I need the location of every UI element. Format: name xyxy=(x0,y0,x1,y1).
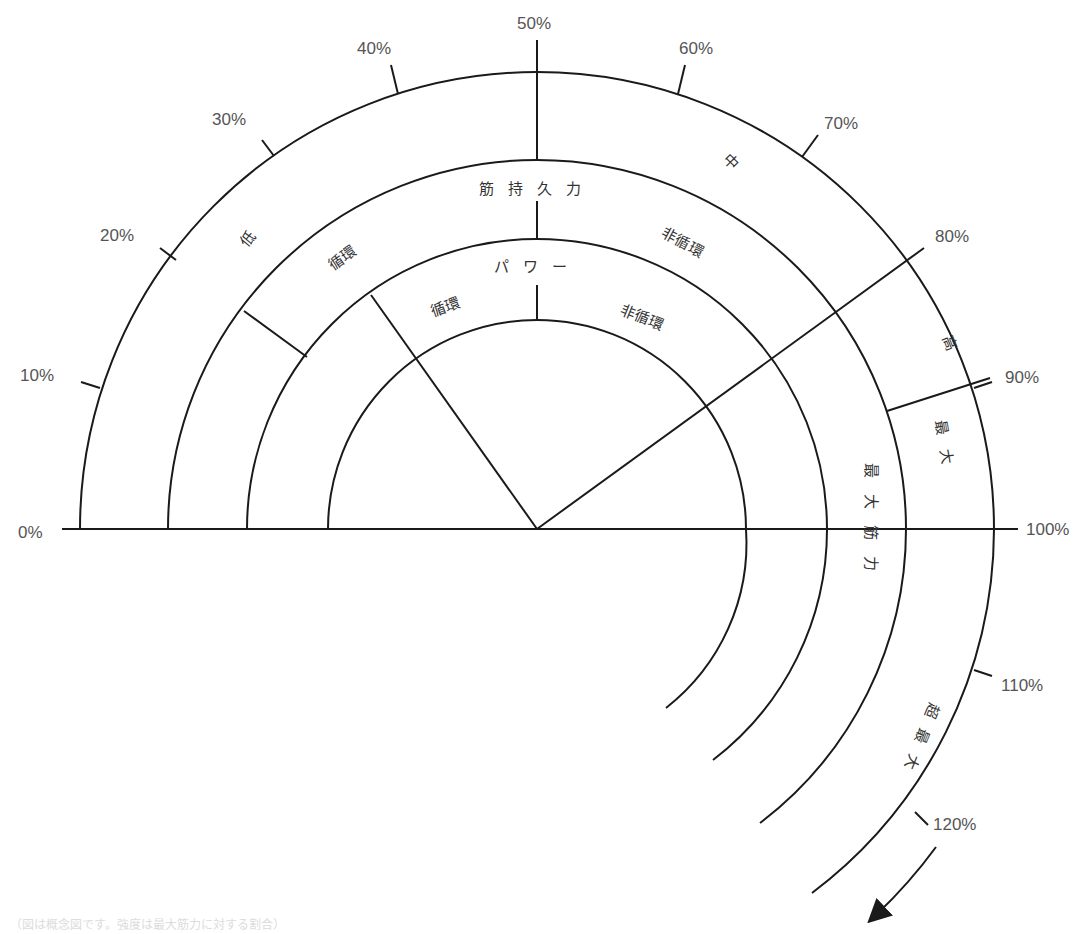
tick-label-20: 20% xyxy=(100,226,134,245)
divider-power-cyclic xyxy=(371,295,537,529)
zone-medium-label: 中 xyxy=(719,150,742,173)
endurance-arc-extension xyxy=(760,529,906,823)
tick-label-50: 50% xyxy=(517,14,551,33)
power-acyclic-label: 非循環 xyxy=(618,301,666,335)
power-inner-arc-extension xyxy=(666,529,746,708)
endurance-acyclic-label: 非循環 xyxy=(658,224,706,261)
tick-label-120: 120% xyxy=(933,815,976,834)
power-title: パワー xyxy=(494,258,581,276)
zone-max-label: 最大 xyxy=(931,419,959,479)
continuation-arrow xyxy=(876,847,936,915)
power-inner-arc xyxy=(328,320,746,529)
zone-supramax-label: 超最大 xyxy=(896,701,943,783)
svg-text:最大: 最大 xyxy=(931,419,959,479)
power-outer-arc xyxy=(247,239,827,529)
tick-label-40: 40% xyxy=(357,39,391,58)
tick-label-110: 110% xyxy=(1001,676,1043,695)
tick-label-90: 90% xyxy=(1005,368,1039,387)
power-cyclic-label: 循環 xyxy=(428,294,462,321)
figure-caption: （図は概念図です。強度は最大筋力に対する割合） xyxy=(10,915,285,932)
svg-text:超最大: 超最大 xyxy=(896,701,943,783)
tick-label-10: 10% xyxy=(20,366,54,385)
tick-label-60: 60% xyxy=(679,39,713,58)
endurance-title: 筋持久力 xyxy=(479,180,595,198)
strength-continuum-diagram: 0% 10% 20% 30% 40% 50% 60% 70% 80% 90% 1… xyxy=(0,0,1091,934)
zone-low-label: 低 xyxy=(236,227,259,250)
endurance-cyclic-label: 循環 xyxy=(325,242,360,274)
divider-endurance-cyclic xyxy=(244,311,307,357)
tick-label-30: 30% xyxy=(212,110,246,129)
tick-label-70: 70% xyxy=(824,114,858,133)
tick-label-0: 0% xyxy=(18,523,43,542)
tick-label-80: 80% xyxy=(935,227,969,246)
percent-labels: 0% 10% 20% 30% 40% 50% 60% 70% 80% 90% 1… xyxy=(18,14,1069,834)
tick-label-100: 100% xyxy=(1026,520,1069,539)
max-strength-label: 最大筋力 xyxy=(862,463,880,587)
power-outer-arc-extension xyxy=(713,529,827,760)
